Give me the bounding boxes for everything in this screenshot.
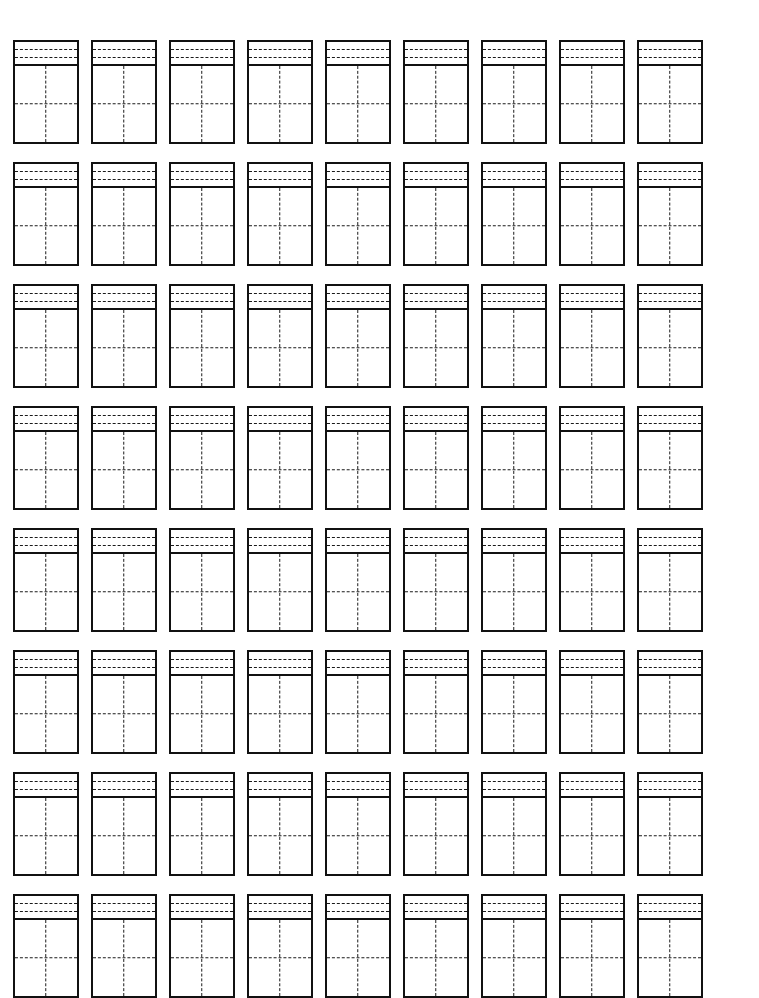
character-square[interactable] — [171, 798, 233, 874]
pinyin-band[interactable] — [171, 42, 233, 66]
character-square[interactable] — [249, 432, 311, 508]
character-square[interactable] — [249, 188, 311, 264]
practice-cell[interactable] — [481, 772, 547, 876]
character-square[interactable] — [171, 188, 233, 264]
pinyin-band[interactable] — [639, 896, 701, 920]
character-square[interactable] — [405, 920, 467, 996]
character-square[interactable] — [15, 310, 77, 386]
character-square[interactable] — [15, 920, 77, 996]
pinyin-band[interactable] — [483, 774, 545, 798]
character-square[interactable] — [327, 310, 389, 386]
pinyin-band[interactable] — [15, 286, 77, 310]
pinyin-band[interactable] — [327, 530, 389, 554]
character-square[interactable] — [483, 188, 545, 264]
character-square[interactable] — [327, 554, 389, 630]
character-square[interactable] — [93, 188, 155, 264]
practice-cell[interactable] — [637, 528, 703, 632]
pinyin-band[interactable] — [561, 530, 623, 554]
practice-cell[interactable] — [325, 162, 391, 266]
pinyin-band[interactable] — [405, 530, 467, 554]
practice-cell[interactable] — [13, 162, 79, 266]
pinyin-band[interactable] — [15, 408, 77, 432]
practice-cell[interactable] — [169, 894, 235, 998]
character-square[interactable] — [483, 432, 545, 508]
character-square[interactable] — [405, 432, 467, 508]
practice-cell[interactable] — [91, 284, 157, 388]
character-square[interactable] — [15, 676, 77, 752]
pinyin-band[interactable] — [249, 774, 311, 798]
pinyin-band[interactable] — [639, 164, 701, 188]
character-square[interactable] — [249, 798, 311, 874]
character-square[interactable] — [483, 798, 545, 874]
practice-cell[interactable] — [13, 528, 79, 632]
practice-cell[interactable] — [169, 40, 235, 144]
character-square[interactable] — [639, 798, 701, 874]
pinyin-band[interactable] — [327, 164, 389, 188]
pinyin-band[interactable] — [15, 164, 77, 188]
practice-cell[interactable] — [91, 406, 157, 510]
pinyin-band[interactable] — [483, 286, 545, 310]
character-square[interactable] — [561, 676, 623, 752]
pinyin-band[interactable] — [561, 286, 623, 310]
character-square[interactable] — [93, 432, 155, 508]
pinyin-band[interactable] — [15, 652, 77, 676]
pinyin-band[interactable] — [249, 896, 311, 920]
character-square[interactable] — [483, 66, 545, 142]
character-square[interactable] — [405, 188, 467, 264]
pinyin-band[interactable] — [639, 530, 701, 554]
pinyin-band[interactable] — [171, 652, 233, 676]
character-square[interactable] — [405, 798, 467, 874]
practice-cell[interactable] — [169, 162, 235, 266]
pinyin-band[interactable] — [93, 774, 155, 798]
practice-cell[interactable] — [247, 284, 313, 388]
practice-cell[interactable] — [91, 894, 157, 998]
pinyin-band[interactable] — [249, 286, 311, 310]
practice-cell[interactable] — [637, 162, 703, 266]
pinyin-band[interactable] — [327, 286, 389, 310]
character-square[interactable] — [639, 188, 701, 264]
practice-cell[interactable] — [637, 650, 703, 754]
practice-cell[interactable] — [325, 40, 391, 144]
character-square[interactable] — [93, 920, 155, 996]
character-square[interactable] — [15, 188, 77, 264]
pinyin-band[interactable] — [405, 42, 467, 66]
practice-cell[interactable] — [481, 162, 547, 266]
practice-cell[interactable] — [247, 772, 313, 876]
practice-cell[interactable] — [559, 162, 625, 266]
character-square[interactable] — [171, 676, 233, 752]
practice-cell[interactable] — [403, 772, 469, 876]
pinyin-band[interactable] — [249, 652, 311, 676]
pinyin-band[interactable] — [405, 896, 467, 920]
character-square[interactable] — [15, 432, 77, 508]
pinyin-band[interactable] — [405, 164, 467, 188]
practice-cell[interactable] — [13, 284, 79, 388]
pinyin-band[interactable] — [171, 164, 233, 188]
character-square[interactable] — [561, 920, 623, 996]
pinyin-band[interactable] — [561, 896, 623, 920]
pinyin-band[interactable] — [639, 408, 701, 432]
character-square[interactable] — [639, 554, 701, 630]
practice-cell[interactable] — [403, 162, 469, 266]
practice-cell[interactable] — [247, 528, 313, 632]
practice-cell[interactable] — [637, 894, 703, 998]
character-square[interactable] — [405, 554, 467, 630]
pinyin-band[interactable] — [249, 42, 311, 66]
pinyin-band[interactable] — [483, 164, 545, 188]
pinyin-band[interactable] — [483, 896, 545, 920]
pinyin-band[interactable] — [327, 896, 389, 920]
practice-cell[interactable] — [13, 650, 79, 754]
character-square[interactable] — [93, 676, 155, 752]
pinyin-band[interactable] — [405, 774, 467, 798]
practice-cell[interactable] — [13, 406, 79, 510]
pinyin-band[interactable] — [483, 42, 545, 66]
pinyin-band[interactable] — [327, 42, 389, 66]
pinyin-band[interactable] — [483, 652, 545, 676]
character-square[interactable] — [171, 432, 233, 508]
practice-cell[interactable] — [247, 162, 313, 266]
pinyin-band[interactable] — [639, 286, 701, 310]
practice-cell[interactable] — [481, 284, 547, 388]
character-square[interactable] — [327, 676, 389, 752]
practice-cell[interactable] — [481, 40, 547, 144]
practice-cell[interactable] — [481, 650, 547, 754]
pinyin-band[interactable] — [93, 164, 155, 188]
